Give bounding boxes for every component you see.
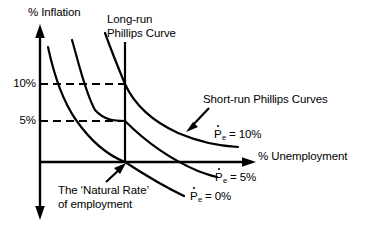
p-subscript-5: e	[223, 176, 227, 185]
p-dot-symbol-0: P	[190, 190, 198, 204]
curve-value-0: = 0%	[205, 190, 231, 202]
x-axis	[40, 157, 256, 167]
phillips-curve-figure: % Inflation % Unemployment 10% 5% Long-r…	[0, 0, 368, 225]
p-dot-symbol-5: P	[215, 171, 223, 185]
long-run-phillips-curve-label-line1: Long-run	[107, 13, 176, 27]
natural-rate-label-pointer-arrow	[106, 163, 126, 182]
diagram-canvas	[0, 0, 368, 225]
y-tick-label-5: 5%	[2, 114, 36, 128]
y-tick-label-10: 10%	[2, 77, 36, 91]
short-run-curve-pe-5	[72, 40, 217, 177]
curve-value-5: = 5%	[230, 171, 256, 183]
long-run-phillips-curve-label: Long-run Phillips Curve	[107, 13, 176, 40]
curve-label-pe-0: Pe = 0%	[190, 190, 231, 205]
x-axis-label: % Unemployment	[258, 150, 347, 164]
curve-label-pe-10: Pe = 10%	[214, 128, 262, 143]
natural-rate-label: The ‘Natural Rate’ of employment	[58, 184, 149, 211]
short-run-phillips-curves-label: Short-run Phillips Curves	[203, 93, 328, 107]
long-run-phillips-curve-label-line2: Phillips Curve	[107, 27, 176, 41]
y-axis-label: % Inflation	[28, 6, 81, 20]
p-subscript-10: e	[222, 133, 226, 142]
p-dot-symbol-10: P	[214, 128, 222, 142]
p-subscript-0: e	[198, 195, 202, 204]
curve-value-10: = 10%	[229, 128, 261, 140]
curve-label-pe-5: Pe = 5%	[215, 171, 256, 186]
natural-rate-label-line1: The ‘Natural Rate’	[58, 184, 149, 198]
short-run-label-pointer-arrow	[186, 108, 209, 132]
natural-rate-label-line2: of employment	[58, 198, 149, 212]
